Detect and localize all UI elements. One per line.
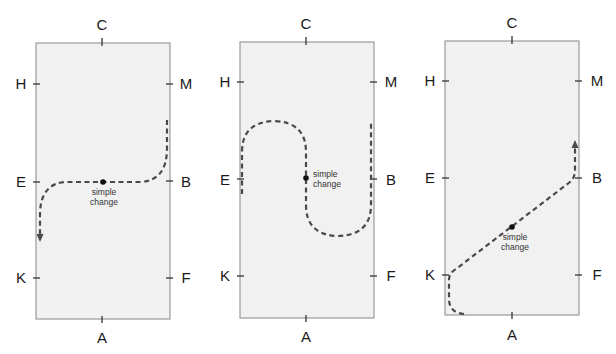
marker-h: H bbox=[220, 73, 231, 90]
marker-b: B bbox=[386, 171, 396, 188]
annotation-change: change bbox=[313, 179, 341, 189]
marker-m: M bbox=[385, 73, 398, 90]
arena-2: C A H E K M B F simple change bbox=[220, 15, 398, 345]
marker-a: A bbox=[301, 328, 311, 345]
annotation-change: change bbox=[90, 197, 118, 207]
dressage-figures-diagram: C A H E K M B F simple change C A H E K … bbox=[0, 0, 616, 354]
annotation-simple: simple bbox=[313, 169, 338, 179]
marker-f: F bbox=[181, 269, 190, 286]
marker-k: K bbox=[16, 269, 26, 286]
centre-point bbox=[100, 179, 106, 185]
marker-a: A bbox=[507, 326, 517, 343]
marker-e: E bbox=[220, 171, 230, 188]
marker-h: H bbox=[16, 75, 27, 92]
marker-h: H bbox=[425, 72, 436, 89]
annotation-simple: simple bbox=[92, 187, 117, 197]
annotation-simple: simple bbox=[503, 232, 528, 242]
marker-c: C bbox=[97, 16, 108, 33]
centre-point bbox=[303, 175, 309, 181]
marker-m: M bbox=[180, 75, 193, 92]
marker-b: B bbox=[181, 173, 191, 190]
marker-c: C bbox=[507, 14, 518, 31]
marker-e: E bbox=[16, 173, 26, 190]
arena-3-boundary bbox=[445, 41, 579, 315]
annotation-change: change bbox=[501, 242, 529, 252]
marker-k: K bbox=[425, 266, 435, 283]
arena-1: C A H E K M B F simple change bbox=[16, 16, 193, 346]
marker-m: M bbox=[591, 72, 604, 89]
marker-e: E bbox=[425, 169, 435, 186]
arena-3: C A H E K M B F simple change bbox=[425, 14, 604, 343]
marker-b: B bbox=[592, 169, 602, 186]
marker-c: C bbox=[301, 15, 312, 32]
marker-f: F bbox=[386, 267, 395, 284]
marker-k: K bbox=[220, 267, 230, 284]
marker-f: F bbox=[592, 266, 601, 283]
marker-a: A bbox=[97, 329, 107, 346]
centre-point bbox=[509, 224, 515, 230]
